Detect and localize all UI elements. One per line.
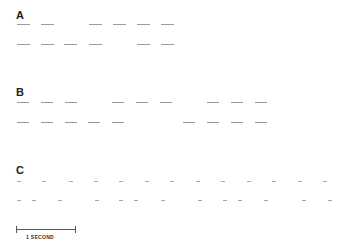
- event-tick: [95, 200, 99, 201]
- event-dash: [137, 24, 150, 25]
- event-dash: [207, 122, 219, 123]
- event-tick: [264, 200, 268, 201]
- event-tick: [238, 200, 242, 201]
- event-dash: [41, 44, 54, 45]
- event-tick: [302, 200, 306, 201]
- event-dash: [112, 102, 124, 103]
- event-tick: [94, 181, 98, 182]
- event-tick: [58, 200, 62, 201]
- event-tick: [161, 200, 165, 201]
- event-dash: [17, 102, 29, 103]
- event-dash: [231, 122, 243, 123]
- event-tick: [119, 200, 123, 201]
- event-dash: [41, 24, 54, 25]
- event-dash: [161, 24, 174, 25]
- event-dash: [255, 102, 267, 103]
- panel-a-label: A: [16, 10, 24, 21]
- event-dash: [41, 122, 53, 123]
- event-dash: [183, 122, 195, 123]
- event-tick: [298, 181, 302, 182]
- event-tick: [17, 200, 21, 201]
- event-tick: [119, 181, 123, 182]
- event-tick: [32, 200, 36, 201]
- event-dash: [89, 24, 102, 25]
- event-tick: [221, 181, 225, 182]
- panel-b-label: B: [16, 87, 24, 98]
- event-tick: [198, 200, 202, 201]
- event-dash: [137, 44, 150, 45]
- event-dash: [231, 102, 243, 103]
- event-tick: [328, 200, 332, 201]
- event-dash: [17, 44, 30, 45]
- event-tick: [145, 181, 149, 182]
- event-dash: [136, 102, 148, 103]
- panel-c-label: C: [16, 165, 24, 176]
- event-tick: [323, 181, 327, 182]
- event-dash: [17, 24, 30, 25]
- event-tick: [17, 181, 21, 182]
- event-tick: [170, 181, 174, 182]
- event-dash: [113, 24, 126, 25]
- event-dash: [41, 102, 53, 103]
- scale-bar: [16, 229, 76, 230]
- event-dash: [65, 102, 77, 103]
- event-tick: [69, 181, 73, 182]
- event-tick: [272, 181, 276, 182]
- event-dash: [88, 122, 100, 123]
- scale-bar-label: 1 SECOND: [26, 234, 54, 240]
- event-dash: [255, 122, 267, 123]
- event-tick: [247, 181, 251, 182]
- event-dash: [65, 122, 77, 123]
- event-tick: [134, 200, 138, 201]
- event-tick: [223, 200, 227, 201]
- event-dash: [112, 122, 124, 123]
- event-dash: [64, 44, 77, 45]
- event-dash: [160, 102, 172, 103]
- event-tick: [42, 181, 46, 182]
- event-tick: [196, 181, 200, 182]
- event-dash: [17, 122, 29, 123]
- event-dash: [207, 102, 219, 103]
- event-dash: [89, 44, 102, 45]
- event-dash: [161, 44, 174, 45]
